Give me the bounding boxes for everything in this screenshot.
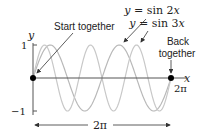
period-label: 2π: [93, 119, 107, 132]
start-dot: [30, 75, 36, 81]
back-label-line2: together: [159, 48, 196, 59]
y-tick-label-neg1: −1: [11, 106, 26, 117]
x-end-label: 2π: [174, 83, 187, 94]
sine-diagram: y 1 −1 x 2π Start together y = sin 2x y …: [0, 0, 220, 137]
back-label-line1: Back: [167, 36, 190, 47]
y-tick-label-1: 1: [21, 40, 27, 51]
end-dot: [168, 75, 174, 81]
arrow-sin-3x: [141, 31, 148, 42]
label-sin-2x: y = sin 2x: [123, 4, 180, 17]
y-axis-label: y: [27, 29, 35, 42]
start-together-label: Start together: [54, 21, 115, 32]
